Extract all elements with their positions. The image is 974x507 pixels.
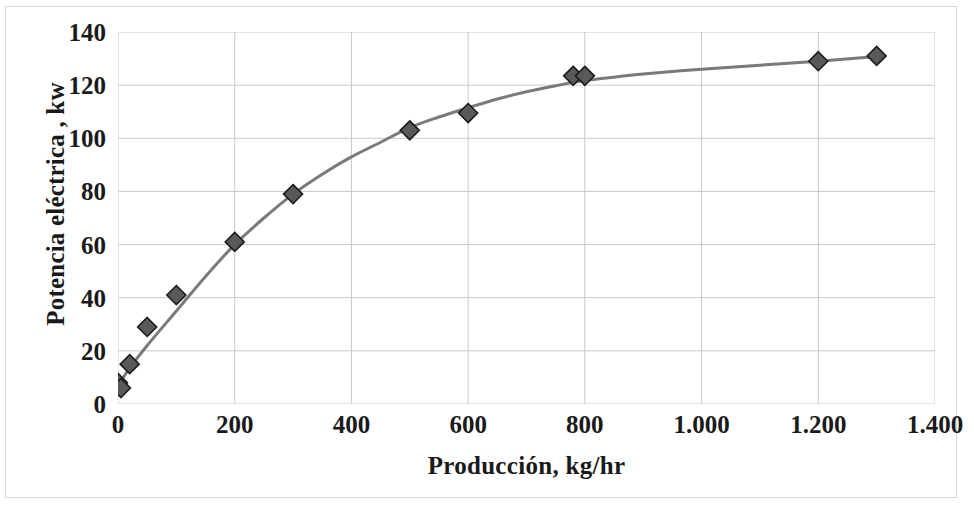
x-axis-tick-label: 1.400 [907,412,963,437]
y-axis-tick-label: 0 [50,392,106,417]
x-axis-tick-label: 400 [333,412,371,437]
x-axis-tick-label: 1.000 [673,412,729,437]
x-axis-tick-label: 200 [216,412,254,437]
data-point-marker [118,379,130,398]
plot-canvas [118,32,935,404]
data-point-marker [809,52,828,71]
y-axis-title: Potencia eléctrica , kw [42,18,70,390]
x-axis-tick-label: 0 [112,412,125,437]
plot-area [118,32,935,404]
chart-figure: 020406080100120140 02004006008001.0001.2… [0,0,974,507]
x-axis-tick-label: 800 [566,412,604,437]
x-axis-tick-label: 1.200 [790,412,846,437]
data-point-marker [138,317,157,336]
axis-ticks [118,32,935,404]
x-axis-tick-labels: 02004006008001.0001.2001.400 [118,412,935,452]
data-point-marker [867,46,886,65]
data-point-marker [225,232,244,251]
gridlines [118,32,935,404]
trend-line [118,56,877,385]
x-axis-title: Producción, kg/hr [118,452,935,480]
x-axis-tick-label: 600 [449,412,487,437]
